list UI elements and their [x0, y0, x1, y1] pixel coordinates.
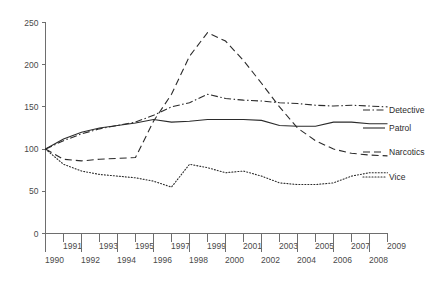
x-tick-label: 1997: [171, 241, 190, 251]
legend-label-narcotics: Narcotics: [389, 147, 424, 157]
x-tick-label: 1996: [153, 255, 172, 265]
y-tick-label: 0: [34, 229, 39, 239]
x-tick-label: 2003: [279, 241, 298, 251]
line-chart: 050100150200250 199019911992199319941995…: [0, 0, 435, 281]
data-series: [46, 33, 388, 187]
x-tick-label: 1990: [45, 255, 64, 265]
y-axis-ticks: 050100150200250: [24, 18, 45, 239]
chart-legend: DetectivePatrolNarcoticsVice: [363, 105, 425, 182]
x-tick-label: 1993: [99, 241, 118, 251]
x-tick-label: 2002: [261, 255, 280, 265]
legend-label-detective: Detective: [389, 105, 425, 115]
x-tick-label: 2009: [387, 241, 406, 251]
axes: [46, 23, 388, 234]
y-tick-label: 50: [29, 186, 39, 196]
x-tick-label: 2001: [243, 241, 262, 251]
y-tick-label: 150: [24, 102, 38, 112]
series-line-vice: [46, 149, 388, 187]
x-tick-label: 2004: [297, 255, 316, 265]
x-tick-label: 2008: [369, 255, 388, 265]
x-tick-label: 2006: [333, 255, 352, 265]
legend-label-vice: Vice: [389, 172, 406, 182]
x-tick-label: 1995: [135, 241, 154, 251]
x-tick-label: 1991: [63, 241, 82, 251]
x-tick-label: 2000: [225, 255, 244, 265]
x-tick-label: 1994: [117, 255, 136, 265]
x-tick-label: 2005: [315, 241, 334, 251]
legend-label-patrol: Patrol: [389, 123, 411, 133]
chart-canvas: 050100150200250 199019911992199319941995…: [0, 0, 435, 281]
x-tick-label: 1999: [207, 241, 226, 251]
x-tick-label: 1992: [81, 255, 100, 265]
x-tick-label: 2007: [351, 241, 370, 251]
y-tick-label: 250: [24, 18, 38, 28]
y-tick-label: 100: [24, 144, 38, 154]
series-line-patrol: [46, 120, 388, 150]
x-tick-label: 1998: [189, 255, 208, 265]
y-tick-label: 200: [24, 60, 38, 70]
x-axis-ticks: 1990199119921993199419951996199719981999…: [45, 234, 406, 265]
